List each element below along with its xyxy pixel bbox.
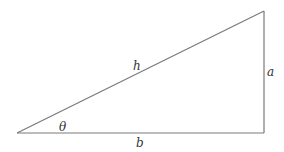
right-triangle-diagram: h a b θ [0,0,284,152]
label-theta: θ [59,120,67,134]
label-h: h [133,59,141,73]
label-b: b [136,136,144,150]
label-a: a [267,65,274,79]
